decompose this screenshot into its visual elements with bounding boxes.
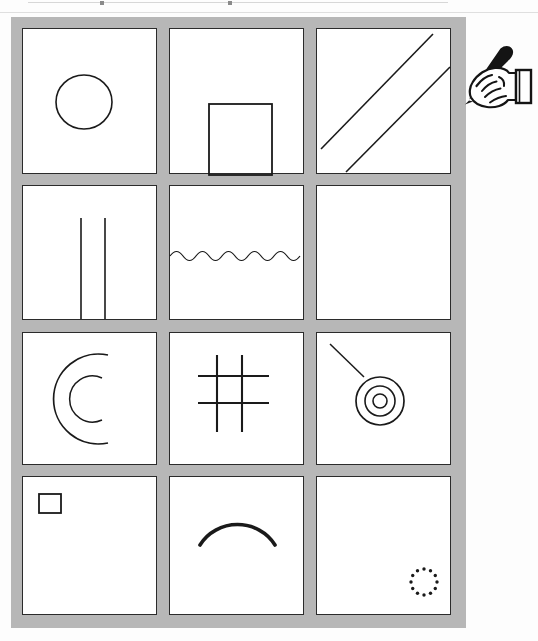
grid-cell-12[interactable]	[316, 476, 451, 615]
grid-cell-11[interactable]	[169, 476, 304, 615]
diagonal-lines-shape	[317, 29, 452, 175]
scanned-page	[0, 0, 538, 641]
hand-holding-pen-icon	[452, 44, 538, 116]
grid-cell-9[interactable]	[316, 332, 451, 465]
bullseye-shape	[317, 333, 452, 466]
empty-cell	[317, 186, 452, 321]
grid-cell-6[interactable]	[316, 185, 451, 320]
grid-cell-5[interactable]	[169, 185, 304, 320]
small-square-shape	[23, 477, 158, 616]
worksheet-grid	[11, 17, 466, 628]
circle-shape	[23, 29, 158, 175]
vertical-lines-shape	[23, 186, 158, 321]
grid-cell-3[interactable]	[316, 28, 451, 174]
arch-shape	[170, 477, 305, 616]
grid-cell-4[interactable]	[22, 185, 157, 320]
dotted-circle-shape	[317, 477, 452, 616]
hash-grid-shape	[170, 333, 305, 466]
grid-cell-7[interactable]	[22, 332, 157, 465]
grid-cell-2[interactable]	[169, 28, 304, 174]
grid-cell-1[interactable]	[22, 28, 157, 174]
grid-cell-10[interactable]	[22, 476, 157, 615]
concentric-c-arcs-shape	[23, 333, 158, 466]
page-edge-tick-left	[100, 1, 104, 5]
square-shape	[170, 29, 305, 189]
page-edge-line-second	[0, 12, 538, 13]
grid-cell-8[interactable]	[169, 332, 304, 465]
wavy-line-shape	[170, 186, 305, 321]
page-edge-tick-right	[228, 1, 232, 5]
page-edge-line-top	[28, 2, 448, 3]
